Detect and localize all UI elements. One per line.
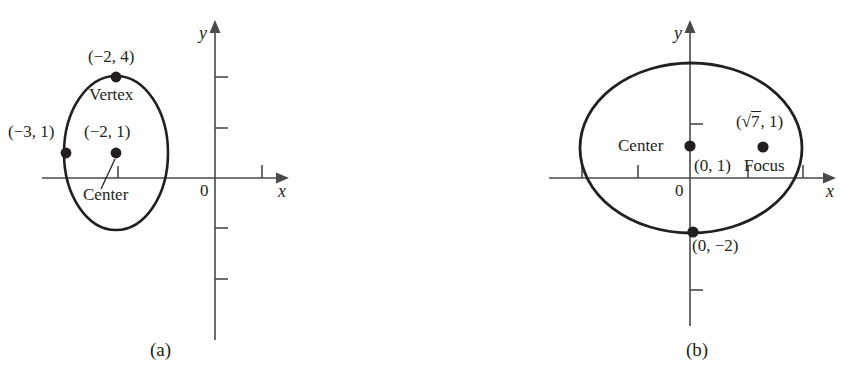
- center-annotation-a: Center: [83, 186, 128, 203]
- x-axis-label-b: x: [826, 182, 834, 200]
- vertex-point-label-a: (−2, 4): [88, 48, 134, 65]
- origin-label-a: 0: [200, 182, 209, 199]
- panel-a-graphics: [0, 0, 423, 385]
- origin-label-b: 0: [675, 182, 684, 199]
- y-axis-label-a: y: [199, 24, 207, 42]
- y-axis-label-b: y: [674, 24, 682, 42]
- panel-a: (−2, 4) Vertex (−3, 1) (−2, 1) Center y …: [0, 0, 423, 385]
- caption-b: (b): [686, 339, 708, 361]
- focus-annotation-b: Focus: [744, 157, 785, 174]
- focus-label-close: , 1): [761, 112, 784, 131]
- ellipse-figure: (−2, 4) Vertex (−3, 1) (−2, 1) Center y …: [0, 0, 847, 385]
- focus-point-label-b: (√7, 1): [736, 112, 783, 130]
- vertex-annotation-a: Vertex: [89, 86, 133, 103]
- point-center-b[interactable]: [684, 140, 695, 151]
- y-axis-arrow-a: [210, 20, 221, 33]
- center-point-label-a: (−2, 1): [84, 123, 130, 140]
- radicand-value: 7: [751, 111, 761, 131]
- center-annotation-b: Center: [618, 137, 663, 154]
- point-center-a[interactable]: [111, 148, 122, 159]
- panel-b-graphics: [424, 0, 847, 385]
- radical-sign: √: [742, 112, 751, 131]
- focus-label-sqrt: √7: [742, 112, 761, 130]
- point-vertex-a[interactable]: [111, 72, 122, 83]
- bottom-point-label-b: (0, −2): [692, 237, 738, 254]
- panel-b: Center (0, 1) (√7, 1) Focus (0, −2) y x …: [424, 0, 847, 385]
- center-point-label-b: (0, 1): [694, 157, 731, 174]
- caption-a: (a): [150, 339, 171, 361]
- x-axis-label-a: x: [278, 182, 286, 200]
- left-point-label-a: (−3, 1): [8, 123, 54, 140]
- point-left-a[interactable]: [61, 148, 72, 159]
- y-axis-arrow-b: [685, 20, 696, 33]
- point-focus-b[interactable]: [757, 141, 768, 152]
